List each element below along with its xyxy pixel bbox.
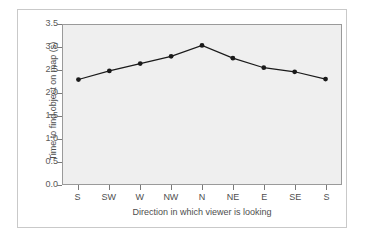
x-axis-tick-label: E [247,192,281,202]
plot-area [62,24,342,185]
y-axis-title: Time to find object on map (s) [48,16,58,186]
data-point [107,69,112,74]
data-point [200,43,205,48]
x-axis-tick-label: N [185,192,219,202]
x-axis-tick-label: S [309,192,343,202]
data-point [261,65,266,70]
data-markers [76,43,328,82]
data-point [138,61,143,66]
data-point [76,77,81,82]
x-axis-tick-label: NE [216,192,250,202]
data-point [323,77,328,82]
x-axis-tick-label: SW [92,192,126,202]
data-point [292,69,297,74]
x-axis-tick-label: SE [278,192,312,202]
x-axis-title: Direction in which viewer is looking [62,207,342,217]
data-point [169,54,174,59]
y-axis-title-wrap: Time to find object on map (s) [30,0,44,200]
line-chart-svg [63,25,341,184]
figure: 0.00.51.01.52.02.53.03.5 Time to find ob… [0,0,366,239]
data-line [78,45,325,79]
x-axis-tick-label: W [123,192,157,202]
data-point [231,56,236,61]
x-axis-tick-label: S [61,192,95,202]
x-axis-tick-label: NW [154,192,188,202]
